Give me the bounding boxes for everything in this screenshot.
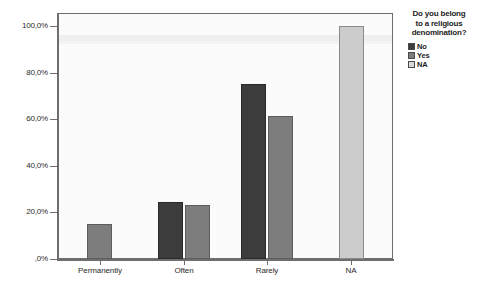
- y-axis-tick: [50, 119, 58, 120]
- legend-item-na: NA: [408, 60, 479, 69]
- y-axis-tick-label-text: 60,0%: [4, 114, 48, 123]
- x-axis-tick: [267, 260, 268, 265]
- y-axis-tick-label: 40,0%: [0, 161, 48, 171]
- x-axis: [57, 259, 394, 261]
- y-axis-tick: [50, 73, 58, 74]
- legend-swatch-icon: [408, 52, 415, 59]
- bar-rarely-yes: [268, 116, 293, 259]
- legend-item-label: No: [417, 42, 427, 51]
- y-axis-tick-label: 60,0%: [0, 114, 48, 124]
- y-axis-tick-label: 80,0%: [0, 68, 48, 78]
- legend-title-line-2: to a religious: [399, 19, 479, 29]
- legend-title-line-1: Do you belong: [399, 9, 479, 19]
- legend-items: NoYesNA: [399, 42, 479, 69]
- y-axis-tick-label-text: 40,0%: [4, 161, 48, 170]
- legend-swatch-icon: [408, 43, 415, 50]
- y-axis-tick-label-text: ,0%: [4, 254, 48, 263]
- y-axis-tick-label: 100,0%: [0, 21, 48, 31]
- legend-swatch-icon: [408, 61, 415, 68]
- x-axis-tick: [351, 260, 352, 265]
- y-axis-tick-label-text: 100,0%: [4, 21, 48, 30]
- chart-figure: ,0%20,0%40,0%60,0%80,0%100,0% Permanentl…: [0, 0, 480, 295]
- x-axis-tick: [184, 260, 185, 265]
- legend-item-label: NA: [417, 60, 428, 69]
- bar-often-yes: [185, 205, 210, 259]
- legend-item-label: Yes: [417, 51, 430, 60]
- bar-permanently-yes: [87, 224, 112, 259]
- x-axis-tick-label-na: NA: [301, 266, 401, 275]
- legend-title-line-3: denomination?: [399, 28, 479, 38]
- y-axis-tick-label-text: 20,0%: [4, 207, 48, 216]
- x-axis-tick: [100, 260, 101, 265]
- y-axis-tick-label-text: 80,0%: [4, 68, 48, 77]
- legend: Do you belong to a religious denominatio…: [399, 9, 479, 69]
- y-axis-tick: [50, 166, 58, 167]
- legend-item-yes: Yes: [408, 51, 479, 60]
- y-axis-tick: [50, 212, 58, 213]
- figure-caption: [12, 284, 452, 292]
- legend-title: Do you belong to a religious denominatio…: [399, 9, 479, 38]
- bar-rarely-no: [241, 84, 266, 259]
- y-axis-tick-label: ,0%: [0, 254, 48, 264]
- y-axis-tick: [50, 26, 58, 27]
- bar-often-no: [158, 202, 183, 259]
- legend-item-no: No: [408, 42, 479, 51]
- y-axis-tick-label: 20,0%: [0, 207, 48, 217]
- bar-na-na: [339, 26, 364, 259]
- y-axis: [57, 13, 59, 260]
